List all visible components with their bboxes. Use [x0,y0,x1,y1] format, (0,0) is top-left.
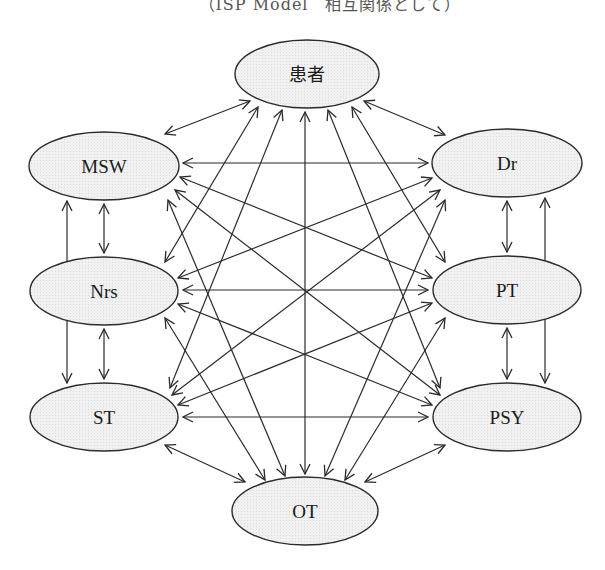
node-label: PT [496,280,519,301]
node-ot: OT [232,477,378,545]
node-label: PSY [490,407,525,428]
node-patient: 患者 [235,40,379,108]
node-psy: PSY [433,383,581,451]
edge-nrs-ot [165,318,265,480]
edge-patient-msw [165,101,250,134]
node-label: ST [93,407,116,428]
interprofessional-relationship-diagram: 患者MSWDrNrsPTSTPSYOT [0,0,605,570]
node-label: Dr [497,153,518,174]
edge-msw-ot [168,200,285,476]
node-msw: MSW [29,132,179,200]
edge-psy-ot [365,445,445,482]
edge-st-ot [165,445,245,482]
node-st: ST [30,383,178,451]
node-label: OT [292,501,318,522]
edge-patient-dr [364,101,445,135]
edge-patient-pt [352,107,445,262]
node-label: 患者 [289,64,325,85]
edge-pt-ot [345,318,445,480]
node-label: MSW [81,156,126,177]
edge-patient-nrs [165,107,258,262]
node-label: Nrs [90,281,117,302]
edge-dr-ot [325,200,445,476]
edge-patient-st [170,110,282,388]
node-nrs: Nrs [30,257,178,325]
node-pt: PT [433,256,581,324]
node-dr: Dr [432,129,582,197]
